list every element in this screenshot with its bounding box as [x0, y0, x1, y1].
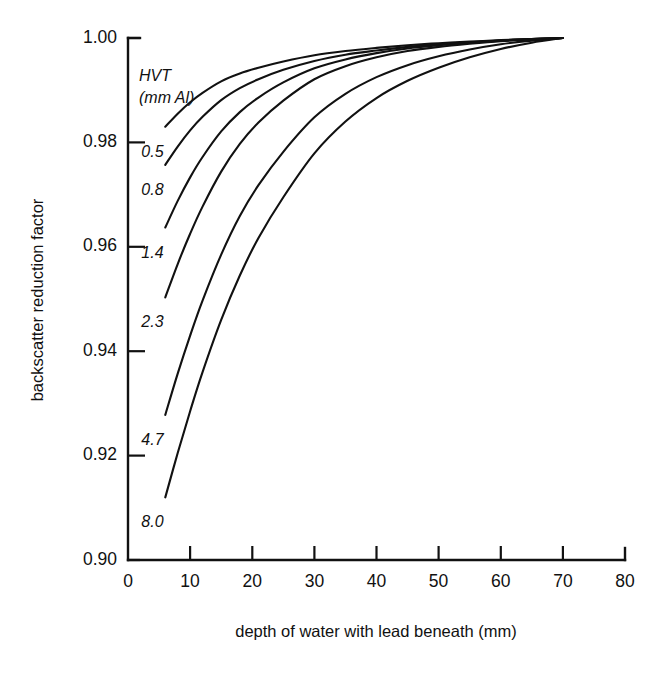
x-tick-label-4: 40 — [367, 571, 387, 591]
curve-hvt-0.8 — [165, 38, 563, 165]
curve-label-4.7: 4.7 — [141, 431, 164, 448]
curve-labels: 0.50.81.42.34.78.0 — [140, 143, 164, 531]
x-tick-label-5: 50 — [429, 571, 449, 591]
x-tick-label-2: 20 — [243, 571, 263, 591]
curve-label-8.0: 8.0 — [141, 513, 163, 530]
x-tick-label-6: 60 — [491, 571, 511, 591]
legend-title: HVT — [139, 67, 172, 84]
y-tick-label-5: 1.00 — [83, 27, 117, 47]
x-tick-label-3: 30 — [305, 571, 325, 591]
y-axis-title: backscatter reduction factor — [28, 198, 46, 401]
y-axis-ticks: 0.90 0.92 0.94 0.96 0.98 1.00 — [83, 27, 145, 569]
x-tick-label-1: 10 — [180, 571, 200, 591]
curve-label-2.3: 2.3 — [140, 313, 163, 330]
data-curves — [165, 38, 563, 497]
y-tick-label-1: 0.92 — [83, 444, 117, 464]
curve-hvt-4.7 — [165, 38, 563, 415]
curve-hvt-8.0 — [165, 38, 563, 497]
y-tick-label-4: 0.98 — [83, 131, 117, 151]
curve-label-0.8: 0.8 — [141, 181, 163, 198]
x-tick-label-8: 80 — [615, 571, 635, 591]
curve-label-1.4: 1.4 — [141, 244, 163, 261]
curve-hvt-2.3 — [165, 38, 563, 297]
x-axis-ticks: 0 10 20 30 40 50 60 70 80 — [123, 546, 635, 591]
legend-units: (mm Al) — [139, 89, 194, 106]
curve-hvt-1.4 — [165, 38, 563, 227]
y-tick-label-3: 0.96 — [83, 235, 117, 255]
x-tick-label-7: 70 — [553, 571, 573, 591]
y-tick-label-0: 0.90 — [83, 549, 117, 569]
curve-label-0.5: 0.5 — [141, 143, 163, 160]
chart-canvas: 0.90 0.92 0.94 0.96 0.98 1.00 0 10 20 30… — [0, 0, 664, 673]
chart-figure: 0.90 0.92 0.94 0.96 0.98 1.00 0 10 20 30… — [0, 0, 664, 673]
x-axis-title: depth of water with lead beneath (mm) — [235, 622, 517, 640]
x-tick-label-0: 0 — [123, 571, 133, 591]
legend-block: HVT (mm Al) — [139, 67, 194, 106]
y-tick-label-2: 0.94 — [83, 340, 117, 360]
